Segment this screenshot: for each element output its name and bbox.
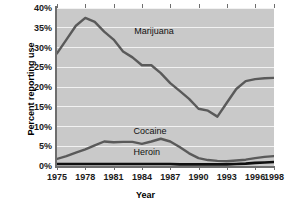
y-tick-label: 30% bbox=[12, 44, 52, 53]
x-tick-mark-top bbox=[227, 4, 228, 8]
y-axis-line bbox=[55, 6, 57, 168]
x-tick-mark bbox=[255, 166, 256, 170]
series-label-marijuana: Marijuana bbox=[134, 26, 174, 36]
x-tick-mark bbox=[199, 166, 200, 170]
x-tick-mark-top bbox=[255, 4, 256, 8]
x-tick-label: 1978 bbox=[75, 172, 95, 182]
x-tick-mark bbox=[142, 166, 143, 170]
y-tick-label: 5% bbox=[12, 142, 52, 151]
x-axis-title: Year bbox=[0, 190, 291, 200]
y-tick-label: 15% bbox=[12, 103, 52, 112]
x-axis-tick-labels: 197519781981198419871990199319961998 bbox=[0, 172, 291, 186]
x-tick-mark bbox=[85, 166, 86, 170]
y-axis-tick-labels: 0%5%10%15%20%25%30%35%40% bbox=[12, 8, 52, 166]
x-tick-mark bbox=[57, 166, 58, 170]
x-tick-mark-top bbox=[114, 4, 115, 8]
x-tick-mark-top bbox=[85, 4, 86, 8]
drug-use-line-chart: Percent reporting use 0%5%10%15%20%25%30… bbox=[0, 0, 291, 211]
x-tick-mark-top bbox=[57, 4, 58, 8]
x-tick-label: 1987 bbox=[160, 172, 180, 182]
x-tick-mark bbox=[170, 166, 171, 170]
series-label-heroin: Heroin bbox=[133, 147, 160, 157]
series-label-cocaine: Cocaine bbox=[133, 126, 166, 136]
y-tick-label: 25% bbox=[12, 63, 52, 72]
series-line-heroin bbox=[57, 162, 274, 164]
x-tick-label: 1993 bbox=[217, 172, 237, 182]
x-tick-label: 1998 bbox=[264, 172, 284, 182]
x-tick-mark bbox=[227, 166, 228, 170]
x-tick-mark bbox=[114, 166, 115, 170]
x-tick-mark-top bbox=[142, 4, 143, 8]
y-tick-label: 40% bbox=[12, 4, 52, 13]
x-tick-mark-top bbox=[170, 4, 171, 8]
x-tick-label: 1984 bbox=[132, 172, 152, 182]
x-tick-mark-top bbox=[199, 4, 200, 8]
x-tick-mark-top bbox=[274, 4, 275, 8]
y-tick-label: 20% bbox=[12, 83, 52, 92]
y-tick-label: 10% bbox=[12, 123, 52, 132]
x-axis-line bbox=[55, 166, 275, 168]
y-tick-label: 0% bbox=[12, 162, 52, 171]
series-line-cocaine bbox=[57, 139, 274, 162]
x-tick-label: 1996 bbox=[245, 172, 265, 182]
x-tick-mark bbox=[274, 166, 275, 170]
y-tick-label: 35% bbox=[12, 24, 52, 33]
x-tick-label: 1981 bbox=[104, 172, 124, 182]
x-tick-label: 1975 bbox=[47, 172, 67, 182]
x-tick-label: 1990 bbox=[189, 172, 209, 182]
